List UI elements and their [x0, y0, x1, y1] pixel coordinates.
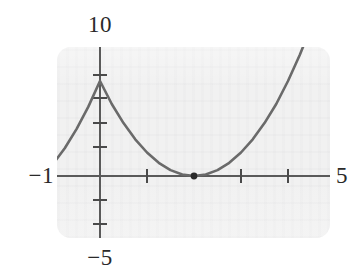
x-axis-max-label: 5: [336, 164, 348, 187]
vertex-marker: [191, 173, 198, 180]
plot-canvas: [57, 47, 330, 238]
plot-panel: [57, 47, 330, 238]
parabola-curve: [57, 47, 312, 176]
graph-figure: 10 −5 −1 5: [0, 0, 362, 280]
y-axis-max-label: 10: [0, 13, 200, 36]
y-axis-min-label: −5: [0, 246, 200, 269]
x-axis-min-label: −1: [14, 164, 54, 187]
